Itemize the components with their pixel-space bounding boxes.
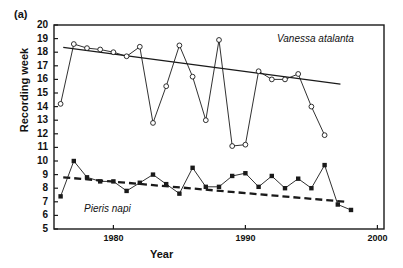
data-point <box>322 163 326 167</box>
data-point <box>283 186 287 190</box>
plot-frame <box>54 25 384 229</box>
figure-panel: (a) Recording week Year Vanessa atalanta… <box>0 0 403 268</box>
data-point <box>85 175 89 179</box>
data-point <box>164 84 169 89</box>
data-point <box>85 46 90 51</box>
trend-line <box>63 47 340 84</box>
data-point <box>203 118 208 123</box>
data-series <box>58 38 353 213</box>
data-point <box>124 189 128 193</box>
y-tick-label: 20 <box>26 19 48 30</box>
data-point <box>296 72 301 77</box>
data-point <box>256 185 260 189</box>
data-point <box>124 54 129 59</box>
data-point <box>349 208 353 212</box>
data-point <box>164 182 168 186</box>
data-point <box>217 185 221 189</box>
data-point <box>204 185 208 189</box>
data-point <box>151 172 155 176</box>
data-point <box>283 77 288 82</box>
plot-canvas <box>0 0 403 268</box>
x-tick-label: 2000 <box>357 233 397 243</box>
data-point <box>217 38 222 43</box>
data-point <box>111 179 115 183</box>
data-point <box>58 101 63 106</box>
data-point <box>230 174 234 178</box>
data-point <box>111 50 116 55</box>
series-line <box>61 40 325 146</box>
y-tick-label: 11 <box>26 141 48 152</box>
y-tick-label: 12 <box>26 128 48 139</box>
y-tick-label: 14 <box>26 101 48 112</box>
data-point <box>243 171 247 175</box>
data-point <box>71 42 76 47</box>
data-point <box>177 43 182 48</box>
data-point <box>336 202 340 206</box>
data-point <box>322 133 327 138</box>
data-point <box>138 181 142 185</box>
y-tick-label: 19 <box>26 33 48 44</box>
data-point <box>177 191 181 195</box>
y-tick-label: 9 <box>26 169 48 180</box>
data-point <box>256 69 261 74</box>
data-point <box>309 104 314 109</box>
data-point <box>98 47 103 52</box>
y-tick-label: 16 <box>26 73 48 84</box>
data-point <box>243 142 248 147</box>
data-point <box>296 176 300 180</box>
trend-lines <box>63 47 345 201</box>
y-tick-label: 8 <box>26 182 48 193</box>
y-tick-label: 13 <box>26 114 48 125</box>
data-point <box>151 121 156 126</box>
y-tick-label: 10 <box>26 155 48 166</box>
data-point <box>137 44 142 49</box>
data-point <box>58 194 62 198</box>
data-point <box>230 144 235 149</box>
data-point <box>269 77 274 82</box>
x-tick-label: 1990 <box>225 233 265 243</box>
y-tick-label: 18 <box>26 46 48 57</box>
data-point <box>190 74 195 79</box>
data-point <box>98 179 102 183</box>
data-point <box>309 186 313 190</box>
data-point <box>190 166 194 170</box>
y-tick-label: 5 <box>26 223 48 234</box>
x-tick-label: 1980 <box>93 233 133 243</box>
y-tick-label: 7 <box>26 196 48 207</box>
y-tick-label: 17 <box>26 60 48 71</box>
axis-ticks <box>54 25 377 229</box>
y-tick-label: 15 <box>26 87 48 98</box>
data-point <box>72 159 76 163</box>
y-tick-label: 6 <box>26 209 48 220</box>
data-point <box>270 174 274 178</box>
